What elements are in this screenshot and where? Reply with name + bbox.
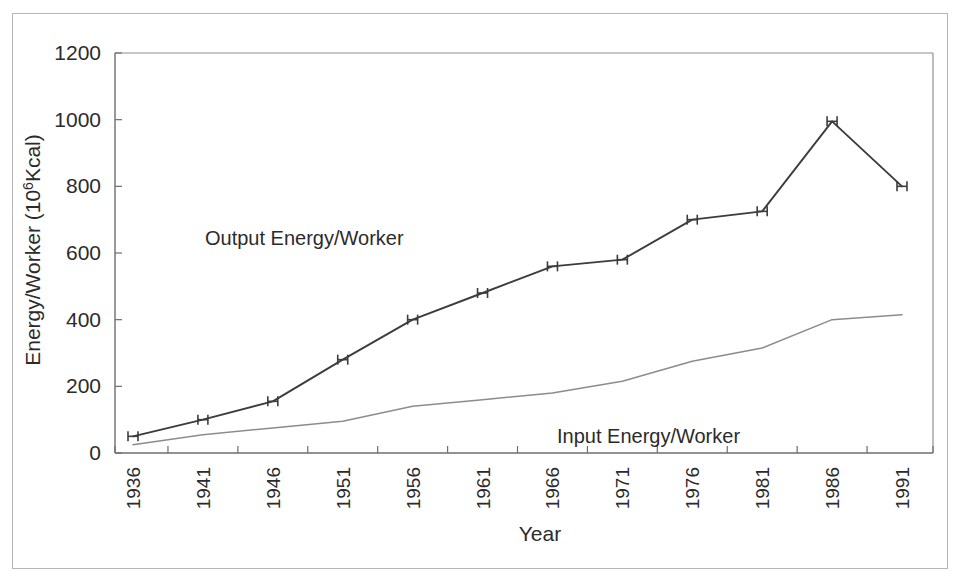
- data-point-marker: [268, 396, 278, 406]
- y-axis-title-prefix: Energy/Worker (10: [21, 190, 44, 366]
- y-tick-label-0: 0: [89, 441, 101, 464]
- data-point-marker: [478, 288, 488, 298]
- data-point-marker: [408, 315, 418, 325]
- data-point-marker: [128, 431, 138, 441]
- y-tick-label-200: 200: [66, 374, 101, 397]
- x-tick-label-1951: 1951: [333, 467, 354, 509]
- y-tick-label-600: 600: [66, 241, 101, 264]
- data-point-marker: [198, 415, 208, 425]
- series-output-energy-per-worker: [128, 116, 907, 441]
- chart-figure: 020040060080010001200 193619411946195119…: [0, 0, 961, 580]
- series-line: [133, 121, 902, 436]
- x-tick-label-1961: 1961: [473, 467, 494, 509]
- data-point-marker: [617, 255, 627, 265]
- x-tick-label-1981: 1981: [752, 467, 773, 509]
- x-tick-label-1991: 1991: [892, 467, 913, 509]
- y-tick-label-400: 400: [66, 308, 101, 331]
- svg-text:Energy/Worker (106Kcal): Energy/Worker (106Kcal): [20, 134, 44, 366]
- x-axis-tick-labels: 1936194119461951195619611966197119761981…: [123, 467, 913, 509]
- series-line: [133, 315, 902, 445]
- x-tick-label-1956: 1956: [403, 467, 424, 509]
- x-tick-label-1986: 1986: [822, 467, 843, 509]
- y-axis-title: Energy/Worker (106Kcal): [20, 134, 44, 366]
- y-tick-label-1000: 1000: [54, 108, 101, 131]
- x-tick-label-1971: 1971: [612, 467, 633, 509]
- y-axis-title-superscript: 6: [20, 182, 36, 190]
- y-axis-ticks: [115, 53, 122, 453]
- data-point-marker: [547, 261, 557, 271]
- series-annotation-input: Input Energy/Worker: [557, 425, 740, 447]
- data-point-marker: [687, 215, 697, 225]
- series-annotation-output: Output Energy/Worker: [205, 227, 404, 249]
- x-tick-label-1976: 1976: [682, 467, 703, 509]
- y-axis-tick-labels: 020040060080010001200: [54, 41, 101, 464]
- y-tick-label-1200: 1200: [54, 41, 101, 64]
- series-input-energy-per-worker: [133, 315, 902, 445]
- data-point-marker: [338, 355, 348, 365]
- x-tick-label-1946: 1946: [263, 467, 284, 509]
- x-tick-label-1966: 1966: [542, 467, 563, 509]
- x-axis-ticks: [115, 446, 933, 453]
- plot-frame: [115, 53, 933, 453]
- y-axis-title-suffix: Kcal): [21, 134, 44, 182]
- series-annotations: Output Energy/WorkerInput Energy/Worker: [205, 227, 740, 447]
- y-tick-label-800: 800: [66, 174, 101, 197]
- x-axis-title: Year: [519, 522, 561, 545]
- line-chart-canvas: 020040060080010001200 193619411946195119…: [0, 0, 961, 580]
- x-tick-label-1941: 1941: [193, 467, 214, 509]
- data-series-layer: [128, 116, 907, 444]
- x-tick-label-1936: 1936: [123, 467, 144, 509]
